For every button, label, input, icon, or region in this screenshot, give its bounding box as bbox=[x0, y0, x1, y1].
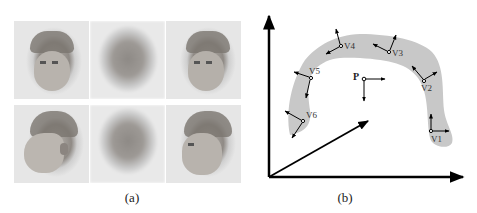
manifold-diagram: P bbox=[0, 0, 477, 213]
vertex-label-v5: V5 bbox=[309, 66, 320, 76]
point-p-label: P bbox=[353, 71, 359, 82]
vertex-label-v2: V2 bbox=[421, 83, 432, 93]
vertex-label-v3: V3 bbox=[392, 48, 403, 58]
vertex-label-v1: V1 bbox=[431, 134, 442, 144]
vertex-label-v4: V4 bbox=[344, 41, 355, 51]
point-p bbox=[362, 77, 385, 101]
caption-b: (b) bbox=[325, 190, 365, 206]
vertex-label-v6: V6 bbox=[306, 110, 317, 120]
